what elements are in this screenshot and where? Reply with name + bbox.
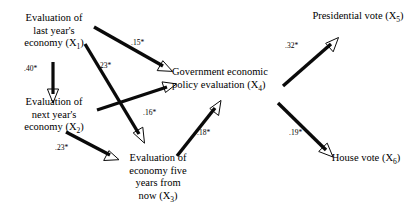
coefficient-x1-x2: .40* bbox=[24, 64, 37, 73]
node-label-line: economy five bbox=[112, 165, 204, 178]
node-house-vote: House vote (X6) bbox=[318, 152, 414, 165]
coefficient-x2-x3: .23* bbox=[55, 143, 68, 152]
coefficient-x3-x4: .18* bbox=[197, 128, 210, 137]
node-label-line: economy (X2) bbox=[8, 121, 100, 134]
node-label-line: Government economic bbox=[172, 66, 292, 79]
coefficient-x4-x6: .19* bbox=[289, 128, 302, 137]
node-label-line: now (X3) bbox=[112, 190, 204, 203]
node-label-line: Evaluation of bbox=[8, 96, 100, 109]
node-next-year-economy: Evaluation of next year's economy (X2) bbox=[8, 96, 100, 134]
node-label-line: Presidential vote (X5) bbox=[300, 10, 416, 23]
node-label-line: Evaluation of bbox=[8, 12, 100, 25]
coefficient-x2-x4: .16* bbox=[143, 108, 156, 117]
node-government-policy: Government economic policy evaluation (X… bbox=[172, 66, 292, 91]
coefficient-x1-x4: .15* bbox=[131, 38, 144, 47]
coefficient-x1-x3: .23* bbox=[98, 61, 111, 70]
node-five-years-economy: Evaluation of economy five years from no… bbox=[112, 152, 204, 202]
node-last-year-economy: Evaluation of last year's economy (X1) bbox=[8, 12, 100, 50]
node-label-line: next year's bbox=[8, 109, 100, 122]
node-label-line: Evaluation of bbox=[112, 152, 204, 165]
node-presidential-vote: Presidential vote (X5) bbox=[300, 10, 416, 23]
coefficient-x4-x5: .32* bbox=[285, 41, 298, 50]
node-label-line: years from bbox=[112, 177, 204, 190]
arrow-x4-to-x6 bbox=[278, 103, 333, 157]
node-label-line: economy (X1) bbox=[8, 37, 100, 50]
node-label-line: last year's bbox=[8, 25, 100, 38]
node-label-line: House vote (X6) bbox=[318, 152, 414, 165]
node-label-line: policy evaluation (X4) bbox=[172, 79, 292, 92]
path-diagram: Evaluation of last year's economy (X1) E… bbox=[0, 0, 418, 212]
